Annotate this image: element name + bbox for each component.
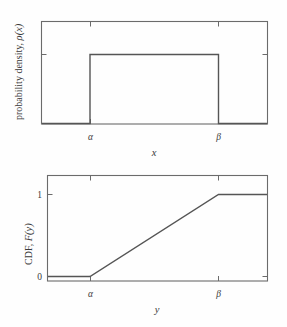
pdf-ylabel: probability density, ρ(x) <box>13 23 25 120</box>
cdf-ylabel-plain: CDF, <box>23 241 34 265</box>
cdf-plot-frame <box>48 176 268 282</box>
cdf-yticklabel-1: 1 <box>37 190 42 200</box>
pdf-panel: probability density, ρ(x) α β x <box>13 22 268 159</box>
cdf-xticklabel-beta: β <box>215 289 221 299</box>
pdf-curve <box>42 55 267 124</box>
cdf-panel: CDF, F(y) 0 1 α β y <box>23 176 268 316</box>
pdf-xticklabel-alpha: α <box>88 132 94 142</box>
cdf-yticklabel-0: 0 <box>37 272 42 282</box>
cdf-ylabel-symbol: F(y) <box>23 223 35 243</box>
cdf-xlabel: y <box>154 304 160 315</box>
pdf-ylabel-symbol: ρ(x) <box>13 23 25 41</box>
cdf-xticklabel-alpha: α <box>88 289 94 299</box>
figure-root: probability density, ρ(x) α β x <box>0 0 287 327</box>
pdf-xticklabel-beta: β <box>215 132 221 142</box>
pdf-ylabel-plain: probability density, <box>13 40 24 120</box>
cdf-ylabel: CDF, F(y) <box>23 223 35 265</box>
pdf-plot-frame <box>42 22 268 125</box>
cdf-curve <box>48 195 267 277</box>
uniform-distribution-figure: probability density, ρ(x) α β x <box>0 0 287 327</box>
pdf-xlabel: x <box>151 147 157 158</box>
